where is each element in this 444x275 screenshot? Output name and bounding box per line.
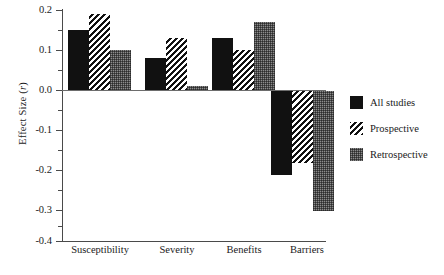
- y-tick-label: -0.3: [12, 205, 52, 216]
- bar-chart: Effect Size (r) 0.2 0.1 0.0 -0.1 -0.2 -0…: [0, 0, 444, 275]
- y-tick-label: 0.2: [12, 5, 52, 16]
- legend-label: Retrospective: [370, 149, 428, 160]
- y-axis-title: Effect Size (r): [17, 44, 28, 184]
- legend-swatch-hatch-icon: [350, 122, 363, 135]
- legend-label: All studies: [370, 97, 415, 108]
- legend-item-retrospective: Retrospective: [350, 144, 428, 164]
- y-tick-minor: [58, 190, 62, 191]
- bar-barriers-all-studies: [271, 91, 292, 175]
- y-tick-label: -0.1: [12, 125, 52, 136]
- y-tick-major: [56, 130, 62, 131]
- x-category-label-severity: Severity: [140, 244, 214, 255]
- y-tick-major: [56, 50, 62, 51]
- legend-swatch-solid-icon: [350, 96, 363, 109]
- y-axis-title-text: Effect Size (: [17, 90, 28, 145]
- x-axis-line: [62, 241, 326, 242]
- x-category-label-susceptibility: Susceptibility: [58, 244, 142, 255]
- y-axis-line: [62, 9, 63, 242]
- y-tick-label: 0.0: [12, 85, 52, 96]
- y-tick-label: -0.4: [12, 236, 52, 247]
- y-tick-label: -0.2: [12, 165, 52, 176]
- legend-swatch-dotted-icon: [350, 148, 363, 161]
- y-tick-major: [56, 170, 62, 171]
- y-tick-minor: [58, 70, 62, 71]
- legend-item-prospective: Prospective: [350, 118, 428, 138]
- y-tick-minor: [58, 150, 62, 151]
- y-tick-minor: [58, 30, 62, 31]
- y-tick-major: [56, 90, 62, 91]
- y-tick-minor: [58, 110, 62, 111]
- y-tick-minor: [58, 226, 62, 227]
- bar-severity-retrospective: [187, 86, 208, 90]
- y-tick-label: 0.1: [12, 45, 52, 56]
- bar-benefits-prospective: [233, 50, 254, 90]
- y-tick-major: [56, 241, 62, 242]
- bar-severity-all-studies: [145, 58, 166, 90]
- chart-legend: All studies Prospective Retrospective: [350, 92, 428, 170]
- x-category-label-barriers: Barriers: [268, 244, 346, 255]
- bar-barriers-retrospective: [313, 91, 334, 211]
- bar-susceptibility-retrospective: [110, 50, 131, 90]
- bar-barriers-prospective: [292, 91, 313, 163]
- bar-benefits-retrospective: [254, 22, 275, 90]
- bar-susceptibility-prospective: [89, 14, 110, 90]
- y-tick-major: [56, 10, 62, 11]
- bar-susceptibility-all-studies: [68, 30, 89, 90]
- bar-severity-prospective: [166, 38, 187, 90]
- y-tick-major: [56, 210, 62, 211]
- legend-label: Prospective: [370, 123, 419, 134]
- bar-benefits-all-studies: [212, 38, 233, 90]
- legend-item-all-studies: All studies: [350, 92, 428, 112]
